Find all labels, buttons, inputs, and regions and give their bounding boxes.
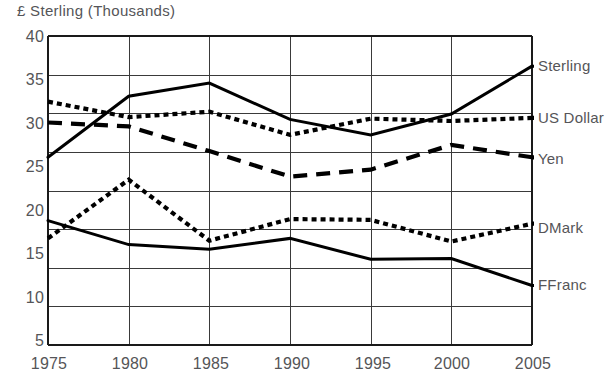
y-axis-title: £ Sterling (Thousands) bbox=[17, 2, 175, 19]
series-label-ffranc: FFranc bbox=[538, 276, 587, 293]
y-tick-label-35: 35 bbox=[4, 71, 44, 89]
series-label-sterling: Sterling bbox=[538, 57, 590, 74]
y-tick-label-10: 10 bbox=[4, 289, 44, 307]
grid-layer bbox=[0, 0, 533, 345]
y-tick-label-40: 40 bbox=[4, 28, 44, 46]
x-tick-label-1990: 1990 bbox=[252, 355, 332, 373]
x-tick-label-1995: 1995 bbox=[333, 355, 413, 373]
x-tick-label-1980: 1980 bbox=[90, 355, 170, 373]
series-label-dmark: DMark bbox=[538, 219, 583, 236]
series-label-us-dollar: US Dollar bbox=[538, 109, 604, 126]
y-tick-label-25: 25 bbox=[4, 158, 44, 176]
x-tick-label-2005: 2005 bbox=[493, 355, 573, 373]
plot-area bbox=[0, 0, 610, 390]
y-tick-label-15: 15 bbox=[4, 245, 44, 263]
x-tick-label-2000: 2000 bbox=[412, 355, 492, 373]
y-tick-label-30: 30 bbox=[4, 115, 44, 133]
line-chart: £ Sterling (Thousands) 40 35 30 25 20 15… bbox=[0, 0, 610, 390]
y-tick-label-20: 20 bbox=[4, 202, 44, 220]
series-label-yen: Yen bbox=[538, 150, 564, 167]
y-tick-label-5: 5 bbox=[4, 332, 44, 350]
x-tick-label-1975: 1975 bbox=[9, 355, 89, 373]
x-tick-label-1985: 1985 bbox=[171, 355, 251, 373]
